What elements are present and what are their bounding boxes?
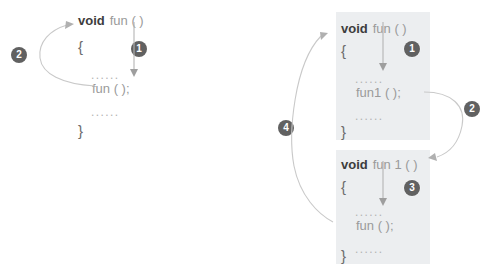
left-recursion-arrowhead xyxy=(65,21,74,29)
left-badge-1: 1 xyxy=(131,41,147,57)
right-fun1-signature-keyword: void xyxy=(341,157,368,172)
right-fun-open-brace: { xyxy=(341,44,346,57)
right-fun-signature: voidfun ( ) xyxy=(341,22,407,35)
left-recursion-curve xyxy=(40,25,95,86)
right-fun-signature-keyword: void xyxy=(341,21,368,36)
right-call-fun-arrowhead xyxy=(320,32,328,40)
right-call-fun-curve xyxy=(292,36,333,222)
right-badge-3: 3 xyxy=(404,180,420,196)
left-ellipsis-bottom: ...... xyxy=(91,105,119,119)
right-fun1-open-brace: { xyxy=(341,180,346,193)
right-fun-call-statement: fun1 ( ); xyxy=(356,86,401,99)
left-open-brace: { xyxy=(78,40,83,53)
left-flow-arrowhead xyxy=(130,69,138,77)
right-badge-4: 4 xyxy=(278,120,294,136)
right-fun1-close-brace: } xyxy=(341,249,346,262)
right-fun1-ellipsis-bottom: ...... xyxy=(355,242,383,256)
right-badge-1: 1 xyxy=(404,41,420,57)
diagram-canvas: voidfun ( ) { ...... fun ( ); ...... } 2… xyxy=(0,0,495,270)
left-signature: voidfun ( ) xyxy=(78,14,144,27)
left-close-brace: } xyxy=(78,124,83,137)
right-fun-ellipsis-top: ...... xyxy=(355,72,383,86)
left-signature-name: fun ( ) xyxy=(105,13,144,28)
right-block-fun1: voidfun 1 ( ) { ...... fun ( ); ...... } xyxy=(336,150,430,264)
left-badge-2: 2 xyxy=(11,47,27,63)
right-fun1-call-statement: fun ( ); xyxy=(356,219,394,232)
right-fun-close-brace: } xyxy=(341,125,346,138)
right-badge-2: 2 xyxy=(464,101,480,117)
right-fun1-signature-name: fun 1 ( ) xyxy=(368,157,418,172)
right-block-fun: voidfun ( ) { ...... fun1 ( ); ...... } xyxy=(336,12,430,140)
left-ellipsis-top: ...... xyxy=(91,68,119,82)
right-fun-signature-name: fun ( ) xyxy=(368,21,407,36)
right-fun-ellipsis-bottom: ...... xyxy=(355,109,383,123)
right-fun1-signature: voidfun 1 ( ) xyxy=(341,158,418,171)
left-call-statement: fun ( ); xyxy=(92,82,130,95)
left-signature-keyword: void xyxy=(78,13,105,28)
right-fun1-ellipsis-top: ...... xyxy=(355,205,383,219)
